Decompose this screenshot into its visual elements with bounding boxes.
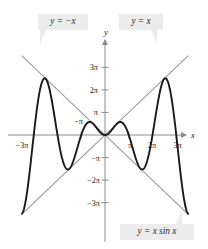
callout-tail-pos-x (151, 30, 157, 44)
x-axis-name: x (190, 130, 195, 140)
y-tick-label-2pi: 2π (90, 86, 99, 95)
x-axis-tick-labels: −3π π 2π 3π (16, 141, 183, 150)
figure-container: 3π 2π π −π −2π −3π −π −3π π 2π 3π x y y … (0, 0, 208, 249)
y-tick-label-pi: π (94, 108, 99, 117)
x-tick-label-neg-3pi: −3π (16, 141, 30, 150)
x-tick-label-3pi: 3π (173, 141, 182, 150)
y-tick-label-3pi: 3π (90, 63, 99, 72)
x-tick-label-2pi: 2π (148, 141, 157, 150)
callout-y-equals-neg-x: y = −x (38, 14, 88, 30)
callout-tail-neg-x (40, 30, 46, 44)
y-axis-name: y (103, 27, 108, 37)
y-tick-label-neg-pi: −π (91, 154, 101, 163)
y-tick-label-neg-2pi: −2π (87, 176, 101, 185)
callout-y-equals-x-sin-x: y = x sin x (120, 224, 194, 240)
y-tick-label-neg-3pi: −3π (87, 199, 101, 208)
callout-tail-curve (176, 210, 182, 224)
callout-y-equals-x: y = x (119, 14, 163, 30)
inner-axis-label-neg-pi: −π (74, 117, 84, 126)
